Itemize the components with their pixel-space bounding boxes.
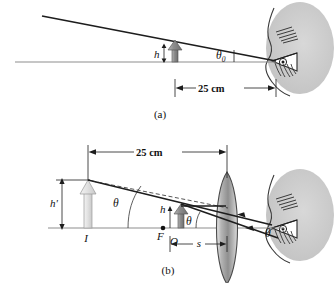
near-point-distance-label-b: 25 cm <box>136 147 163 158</box>
image-height-label-b: h' <box>50 197 59 209</box>
angle-label-mid-b: θ <box>186 215 192 227</box>
near-point-dimension-a <box>175 79 276 97</box>
panel-caption-a: (a) <box>154 108 167 121</box>
physics-figure: h θ0 25 cm (a) <box>0 0 334 283</box>
panel-b: θ θ θ h' h I F O <box>48 145 334 283</box>
converging-lens-b <box>217 172 238 283</box>
figure-canvas: h θ0 25 cm (a) <box>0 0 334 283</box>
angle-label-left-b: θ <box>113 197 119 209</box>
head-shape-icon <box>266 169 334 261</box>
focal-point-label-b: F <box>156 230 164 242</box>
eye-profile-b <box>266 169 334 263</box>
angle-label-right-b: θ <box>265 227 271 239</box>
angle-subscript-a: 0 <box>222 55 226 64</box>
object-height-label-b: h <box>160 203 166 215</box>
panel-caption-b: (b) <box>162 264 175 277</box>
image-point-label-b: I <box>83 232 89 244</box>
angle-arc-mid-b <box>196 212 200 228</box>
panel-a: h θ0 25 cm (a) <box>15 2 334 121</box>
object-distance-label-b: s <box>197 237 201 249</box>
object-height-dimension-b <box>168 206 173 228</box>
object-height-dimension-a <box>162 44 167 64</box>
image-arrow-b <box>80 180 96 228</box>
near-point-distance-label-a: 25 cm <box>198 83 225 94</box>
object-height-label-a: h <box>154 48 160 60</box>
pupil-icon <box>282 61 285 64</box>
